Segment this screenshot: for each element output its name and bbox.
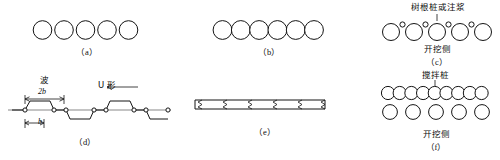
mixing-pile-circle (475, 86, 488, 99)
pile-circle (475, 105, 490, 120)
panel-e-diagram (192, 97, 332, 119)
pile-circle (33, 21, 52, 40)
interlock-node (144, 108, 148, 112)
dimension-arrow-b (25, 119, 44, 128)
panel-a-circles (32, 18, 142, 42)
panel-f-pile-rows (376, 80, 496, 128)
interlock-node (64, 108, 68, 112)
pile-circle (305, 21, 324, 40)
interlock-joint (298, 100, 302, 109)
engineering-figure-retaining-structures: （a） （b） 树根桩或注浆 开挖 (0, 0, 500, 160)
interlock-node (92, 108, 96, 112)
caption-panel-d: （d） (50, 138, 120, 147)
interlock-joint (248, 100, 252, 109)
grout-pile-circle (469, 22, 474, 27)
pile-circle (231, 21, 250, 40)
u-shape-arrow (107, 85, 138, 90)
panel-c-diagram (378, 14, 496, 46)
caption-panel-c: （c） (402, 58, 472, 67)
panel-e-flat-sheet-pile (192, 97, 332, 119)
panel-c-top-label: 树根桩或注浆 (385, 3, 491, 12)
pile-circle (213, 21, 232, 40)
panel-f-diagram (376, 80, 496, 128)
caption-panel-f: （f） (401, 143, 471, 152)
panel-d-wave-label: 波 (30, 76, 58, 85)
panel-c-circles (378, 14, 496, 46)
interlock-joint (273, 100, 277, 109)
pile-circle (475, 24, 492, 41)
panel-f-top-label: 搅拌桩 (395, 71, 475, 80)
interlock-node (104, 108, 108, 112)
interlock-node (166, 108, 170, 112)
panel-b-circles (212, 18, 327, 42)
dimension-arrow-2b (25, 95, 64, 104)
interlock-node (132, 108, 136, 112)
interlock-node (23, 108, 27, 112)
panel-b-diagram (212, 18, 327, 42)
pile-circle (406, 24, 423, 41)
pile-circle (268, 21, 287, 40)
interlock-joint (198, 100, 202, 109)
pile-circle (119, 21, 138, 40)
pile-circle (429, 105, 444, 120)
caption-panel-a: （a） (52, 48, 122, 57)
panel-a-diagram (32, 18, 142, 42)
panel-d-sheet-pile-profile (8, 85, 173, 133)
interlock-joint (321, 100, 325, 109)
pile-circle (429, 24, 446, 41)
interlock-node (52, 108, 56, 112)
pile-circle (55, 21, 74, 40)
pile-circle (76, 21, 95, 40)
grout-pile-circle (423, 22, 428, 27)
panel-f-bottom-label: 开挖侧 (396, 130, 476, 139)
pile-circle (406, 105, 421, 120)
pile-circle (250, 21, 269, 40)
grout-pile-circle (446, 22, 451, 27)
pile-circle (452, 24, 469, 41)
pile-circle (383, 105, 398, 120)
panel-c-bottom-label: 开挖侧 (395, 45, 479, 54)
pile-circle (452, 105, 467, 120)
sheet-pile-bar (195, 100, 325, 109)
panel-d-diagram (8, 85, 173, 133)
caption-panel-e: （e） (230, 128, 300, 137)
pile-circle (286, 21, 305, 40)
interlock-joint (223, 100, 227, 109)
grout-pile-circle (400, 22, 405, 27)
pile-circle (383, 24, 400, 41)
pile-circle (98, 21, 117, 40)
caption-panel-b: （b） (234, 48, 304, 57)
